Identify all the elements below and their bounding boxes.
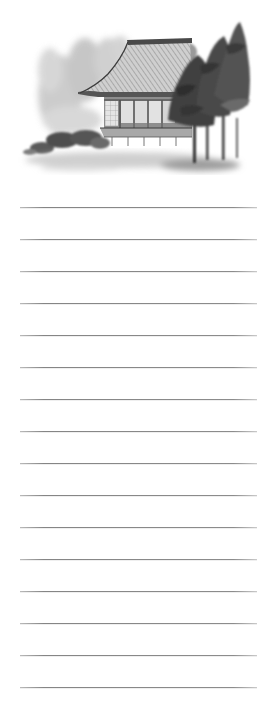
ruled-line: [20, 399, 257, 400]
ruled-line: [20, 239, 257, 240]
ruled-line: [20, 335, 257, 336]
ruled-line: [20, 303, 257, 304]
ruled-line: [20, 687, 257, 688]
ruled-line: [20, 207, 257, 208]
ruled-writing-area: [0, 0, 274, 701]
ruled-line: [20, 431, 257, 432]
ruled-line: [20, 271, 257, 272]
ruled-line: [20, 463, 257, 464]
ruled-line: [20, 559, 257, 560]
ruled-line: [20, 495, 257, 496]
ruled-line: [20, 655, 257, 656]
ruled-line: [20, 591, 257, 592]
ruled-line: [20, 623, 257, 624]
ruled-line: [20, 527, 257, 528]
ruled-line: [20, 367, 257, 368]
